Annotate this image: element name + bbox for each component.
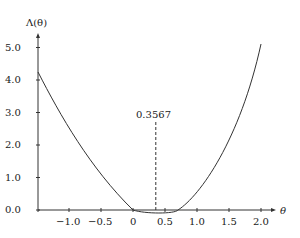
y-tick-label: 5.0 (5, 42, 21, 53)
y-tick-label: 1.0 (5, 172, 21, 183)
x-tick-label: 0.5 (157, 216, 173, 227)
x-tick-label: −0.5 (88, 216, 112, 227)
y-axis-arrow-icon (36, 33, 40, 38)
x-axis-arrow-icon (271, 208, 276, 212)
chart: Λ(θ) θ 0.0 1.0 2.0 3.0 4.0 5.0 −1.0 −0.5… (0, 0, 300, 238)
y-tick-label: 4.0 (5, 74, 21, 85)
x-tick-label: 1.0 (189, 216, 205, 227)
x-tick-label: 2.0 (253, 216, 269, 227)
lambda-curve (38, 44, 261, 213)
x-tick-label: −1.0 (56, 216, 80, 227)
x-tick-label: 0 (130, 216, 136, 227)
x-axis-label: θ (280, 205, 286, 216)
x-ticks: −1.0 −0.5 0 0.5 1.0 1.5 2.0 (56, 208, 269, 227)
y-ticks: 0.0 1.0 2.0 3.0 4.0 5.0 (5, 42, 40, 215)
y-tick-label: 2.0 (5, 139, 21, 150)
minimizer-label: 0.3567 (136, 109, 171, 120)
y-tick-label: 0.0 (5, 204, 21, 215)
x-tick-label: 1.5 (221, 216, 237, 227)
y-tick-label: 3.0 (5, 107, 21, 118)
y-axis-label: Λ(θ) (25, 17, 47, 28)
